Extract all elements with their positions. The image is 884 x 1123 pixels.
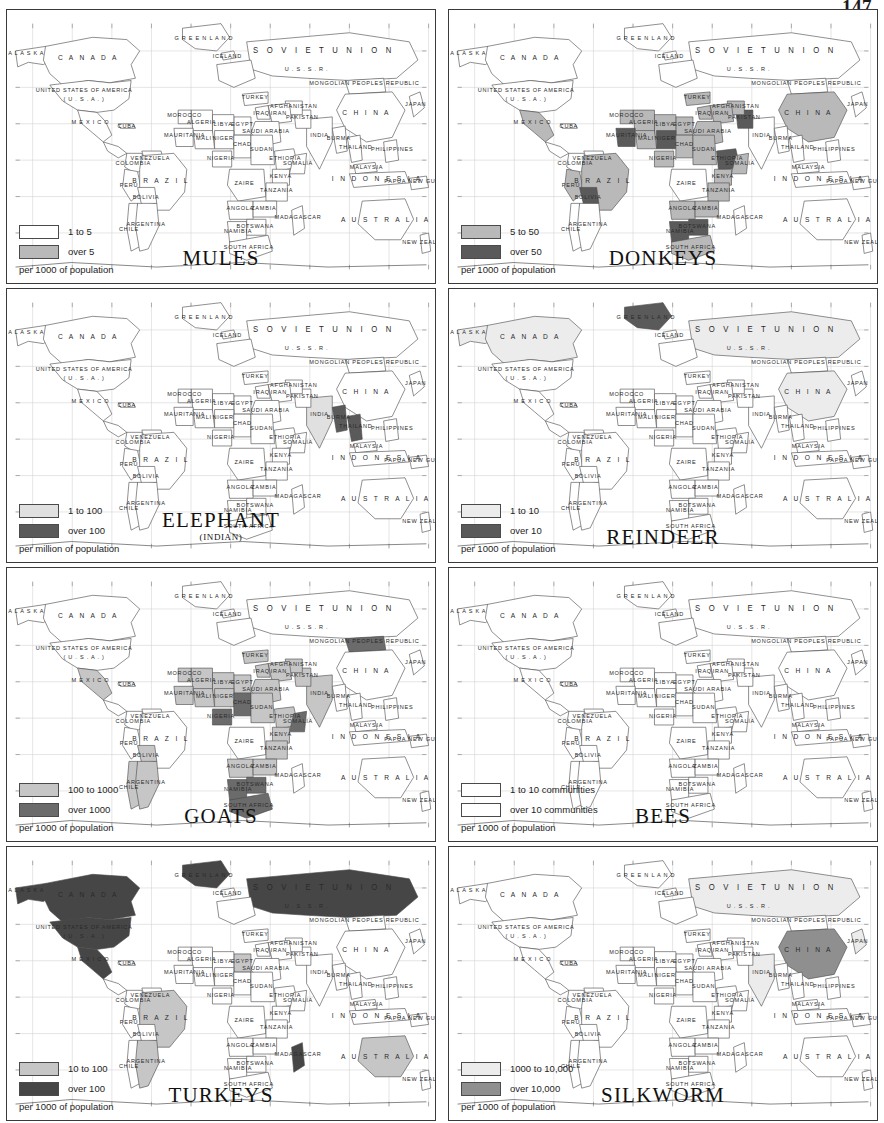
map-label-zaire: ZAIRE	[234, 738, 254, 744]
map-label-iran: IRAN	[271, 388, 287, 394]
map-panel-silkworm[interactable]: A L A S K AC A N A D AUNITED STATES OF A…	[448, 846, 878, 1121]
map-cell-bees: A L A S K AC A N A D AUNITED STATES OF A…	[442, 565, 884, 844]
map-panel-mules[interactable]: A L A S K AC A N A D AUNITED STATES OF A…	[6, 9, 436, 284]
map-label-colombia: COLOMBIA	[116, 997, 151, 1003]
map-label-saudi: SAUDI ARABIA	[242, 128, 290, 134]
map-label-afghanistan: AFGHANISTAN	[712, 382, 759, 388]
country-canada	[43, 37, 139, 85]
map-title-mules: MULES	[182, 246, 259, 271]
map-title-goats: GOATS	[184, 804, 258, 829]
map-label-malaysia: MALAYSIA	[792, 1001, 825, 1007]
map-label-mexico: M E X I C O	[72, 398, 110, 404]
map-label-cuba: CUBA	[118, 960, 136, 966]
map-label-kenya: KENYA	[270, 1010, 292, 1016]
country-canada	[43, 595, 139, 643]
map-title-elephant: ELEPHANT(INDIAN)	[162, 508, 280, 542]
map-label-burma: BURMA	[769, 693, 793, 699]
map-label-pakistan: PAKISTAN	[286, 114, 319, 120]
map-label-zambia: ZAMBIA	[693, 763, 718, 769]
map-label-bolivia: BOLIVIA	[133, 194, 160, 200]
map-label-sudan: SUDAN	[250, 425, 273, 431]
map-label-angola: ANGOLA	[226, 1042, 254, 1048]
legend-unit: per 1000 of population	[19, 1102, 114, 1112]
map-label-nigeria: NIGERIA	[207, 434, 235, 440]
map-panel-turkeys[interactable]: A L A S K AC A N A D AUNITED STATES OF A…	[6, 846, 436, 1121]
map-label-zambia: ZAMBIA	[693, 205, 718, 211]
map-label-botswana: BOTSWANA	[236, 781, 274, 787]
legend-label-0: 1 to 5	[68, 227, 92, 237]
map-label-iceland: ICELAND	[213, 53, 242, 59]
legend-label-1: over 10 communities	[510, 805, 598, 815]
map-label-soviet_union: S O V I E T U N I O N	[695, 604, 836, 613]
map-label-tanzania: TANZANIA	[260, 1024, 293, 1030]
legend-label-1: over 100	[68, 1084, 105, 1094]
map-label-kenya: KENYA	[712, 731, 734, 737]
map-label-thailand: THAILAND	[781, 423, 814, 429]
legend-row-0: 1000 to 10,000	[461, 1062, 573, 1076]
map-label-morocco: MOROCCO	[167, 670, 202, 676]
map-label-iceland: ICELAND	[213, 332, 242, 338]
map-label-thailand: THAILAND	[339, 423, 372, 429]
map-label-usa_line1: UNITED STATES OF AMERICA	[36, 924, 133, 930]
map-label-kenya: KENYA	[270, 173, 292, 179]
map-label-morocco: MOROCCO	[167, 112, 202, 118]
map-label-greenland: G R E E N L A N D	[616, 34, 675, 40]
map-label-chad: CHAD	[233, 141, 252, 147]
map-label-mongolia: MONGOLIAN PEOPLES REPUBLIC	[751, 80, 861, 86]
map-label-canada: C A N A D A	[58, 333, 119, 340]
map-label-canada: C A N A D A	[58, 891, 119, 898]
map-panel-elephant[interactable]: A L A S K AC A N A D AUNITED STATES OF A…	[6, 288, 436, 563]
map-label-ussr: U . S . S . R .	[285, 624, 329, 630]
map-label-philippines: PHILIPPINES	[371, 425, 414, 431]
map-label-afghanistan: AFGHANISTAN	[712, 940, 759, 946]
map-label-madagascar: MADAGASCAR	[275, 1051, 322, 1057]
map-label-greenland: G R E E N L A N D	[174, 34, 233, 40]
legend-unit: per 1000 of population	[19, 265, 114, 275]
map-label-niger: NIGER	[212, 972, 233, 978]
map-label-tanzania: TANZANIA	[702, 1024, 735, 1030]
map-label-angola: ANGOLA	[226, 484, 254, 490]
map-label-cuba: CUBA	[560, 123, 578, 129]
legend-swatch-1	[19, 245, 59, 259]
map-label-afghanistan: AFGHANISTAN	[270, 661, 317, 667]
map-label-cuba: CUBA	[560, 960, 578, 966]
map-label-argentina: ARGENTINA	[127, 221, 166, 227]
map-label-turkey: TURKEY	[242, 931, 269, 937]
map-label-afghanistan: AFGHANISTAN	[270, 940, 317, 946]
map-label-algeria: ALGERIA	[629, 677, 658, 683]
map-label-ussr: U . S . S . R .	[285, 66, 329, 72]
map-label-afghanistan: AFGHANISTAN	[270, 382, 317, 388]
map-label-zaire: ZAIRE	[676, 1017, 696, 1023]
map-panel-reindeer[interactable]: A L A S K AC A N A D AUNITED STATES OF A…	[448, 288, 878, 563]
map-label-zambia: ZAMBIA	[251, 763, 276, 769]
map-title-donkeys: DONKEYS	[609, 246, 718, 271]
map-legend: 1 to 10 communities over 10 communities …	[461, 783, 598, 833]
map-legend: 10 to 100 over 100 per 1000 of populatio…	[19, 1062, 114, 1112]
map-label-bolivia: BOLIVIA	[575, 473, 602, 479]
map-label-mali: MALI	[196, 414, 212, 420]
map-label-cuba: CUBA	[118, 123, 136, 129]
map-label-niger: NIGER	[212, 414, 233, 420]
map-label-zaire: ZAIRE	[676, 738, 696, 744]
map-label-sudan: SUDAN	[250, 704, 273, 710]
map-label-morocco: MOROCCO	[609, 391, 644, 397]
map-label-japan: JAPAN	[847, 100, 868, 106]
map-label-zambia: ZAMBIA	[251, 1042, 276, 1048]
map-label-burma: BURMA	[769, 135, 793, 141]
map-panel-bees[interactable]: A L A S K AC A N A D AUNITED STATES OF A…	[448, 567, 878, 842]
map-title-silkworm: SILKWORM	[601, 1083, 725, 1108]
legend-label-1: over 10	[510, 526, 542, 536]
map-label-libya: LIBYA	[656, 679, 675, 685]
map-label-japan: JAPAN	[405, 379, 426, 385]
map-panel-goats[interactable]: A L A S K AC A N A D AUNITED STATES OF A…	[6, 567, 436, 842]
map-panel-donkeys[interactable]: A L A S K AC A N A D AUNITED STATES OF A…	[448, 9, 878, 284]
map-label-mali: MALI	[196, 972, 212, 978]
legend-label-0: 1 to 10 communities	[510, 785, 595, 795]
map-label-japan: JAPAN	[405, 937, 426, 943]
map-label-australia: A U S T R A L I A	[783, 215, 873, 222]
legend-row-1: over 5	[19, 245, 114, 259]
map-cell-mules: A L A S K AC A N A D AUNITED STATES OF A…	[0, 7, 442, 286]
map-label-iran: IRAN	[271, 667, 287, 673]
map-label-japan: JAPAN	[847, 658, 868, 664]
map-label-new_zealand: NEW ZEALAND	[844, 797, 877, 803]
